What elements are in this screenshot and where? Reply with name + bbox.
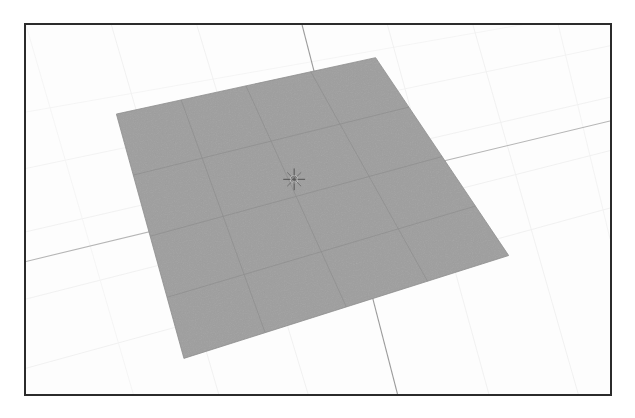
screenshot-root: 3D Viewport Render User Perspective Soli… (0, 0, 635, 418)
viewport-frame[interactable] (24, 23, 612, 396)
viewport-canvas[interactable] (26, 25, 610, 394)
